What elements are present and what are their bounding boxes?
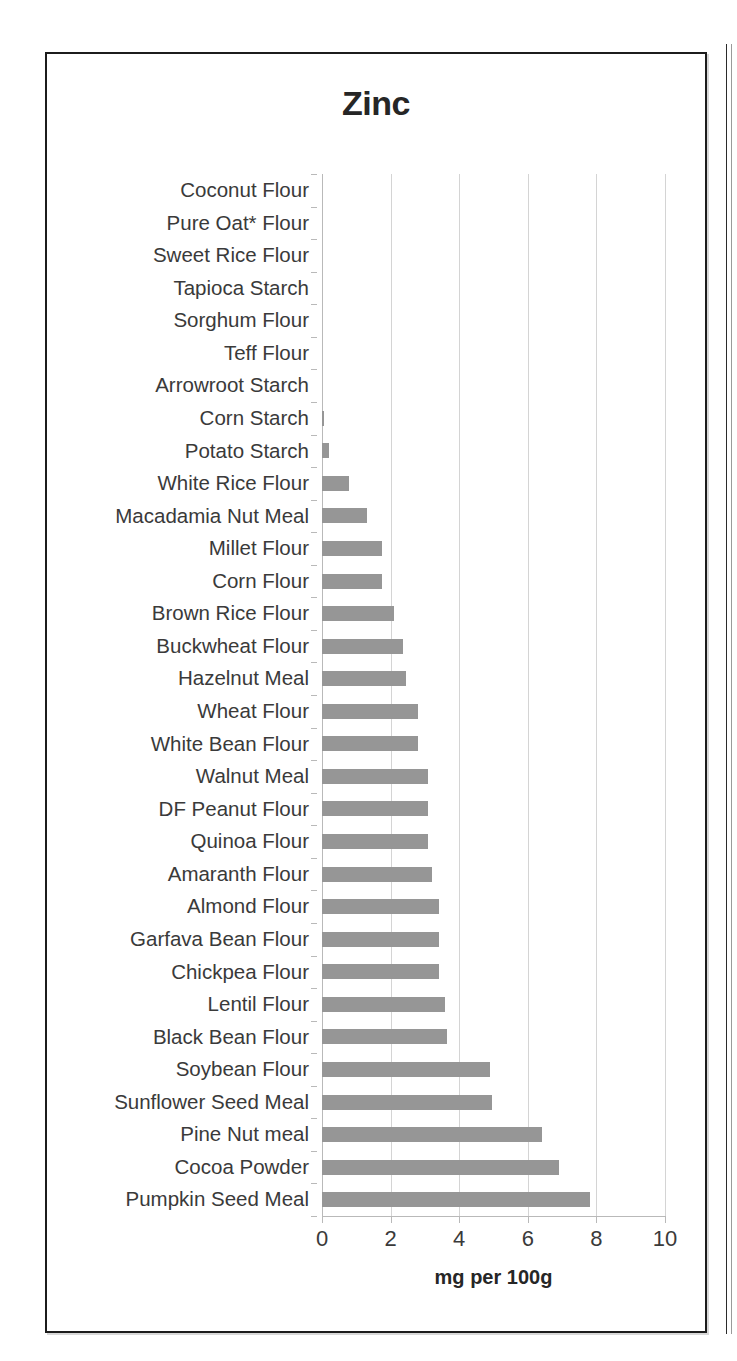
category-tick xyxy=(311,239,317,240)
bar[interactable] xyxy=(322,508,367,523)
category-tick xyxy=(311,760,317,761)
bar[interactable] xyxy=(322,639,403,654)
bar-row[interactable] xyxy=(322,825,665,858)
bar-row[interactable] xyxy=(322,1151,665,1184)
x-tick-label: 4 xyxy=(429,1226,489,1252)
page-edge-line xyxy=(726,44,727,1334)
bar-series xyxy=(322,174,665,1216)
category-tick xyxy=(311,1151,317,1152)
category-label: Pine Nut meal xyxy=(67,1118,317,1151)
bar-row[interactable] xyxy=(322,369,665,402)
bar[interactable] xyxy=(322,1160,559,1175)
category-label: Brown Rice Flour xyxy=(67,597,317,630)
category-label: Amaranth Flour xyxy=(67,858,317,891)
bar[interactable] xyxy=(322,541,382,556)
bar[interactable] xyxy=(322,606,394,621)
bar[interactable] xyxy=(322,899,439,914)
bar[interactable] xyxy=(322,574,382,589)
bar-row[interactable] xyxy=(322,728,665,761)
bar[interactable] xyxy=(322,1095,492,1110)
category-label: Sorghum Flour xyxy=(67,304,317,337)
bar-row[interactable] xyxy=(322,662,665,695)
bar-row[interactable] xyxy=(322,597,665,630)
category-label: Wheat Flour xyxy=(67,695,317,728)
bar-row[interactable] xyxy=(322,793,665,826)
category-label: Potato Starch xyxy=(67,435,317,468)
bar-row[interactable] xyxy=(322,532,665,565)
bar-row[interactable] xyxy=(322,500,665,533)
bar-row[interactable] xyxy=(322,207,665,240)
category-tick xyxy=(311,1118,317,1119)
category-label: DF Peanut Flour xyxy=(67,793,317,826)
category-tick xyxy=(311,207,317,208)
bar-row[interactable] xyxy=(322,467,665,500)
bar-row[interactable] xyxy=(322,402,665,435)
category-tick xyxy=(311,890,317,891)
bar-row[interactable] xyxy=(322,1086,665,1119)
bar-row[interactable] xyxy=(322,760,665,793)
category-tick xyxy=(311,630,317,631)
category-label: Garfava Bean Flour xyxy=(67,923,317,956)
category-axis-labels: Coconut FlourPure Oat* FlourSweet Rice F… xyxy=(67,174,317,1216)
bar-row[interactable] xyxy=(322,239,665,272)
bar-row[interactable] xyxy=(322,988,665,1021)
bar[interactable] xyxy=(322,1029,447,1044)
x-axis-line xyxy=(322,1216,665,1217)
plot-area xyxy=(322,174,665,1216)
category-label: Black Bean Flour xyxy=(67,1021,317,1054)
bar-row[interactable] xyxy=(322,630,665,663)
category-tick xyxy=(311,532,317,533)
category-tick xyxy=(311,858,317,859)
category-label: Tapioca Starch xyxy=(67,272,317,305)
category-label: Chickpea Flour xyxy=(67,956,317,989)
bar-row[interactable] xyxy=(322,1021,665,1054)
bar-row[interactable] xyxy=(322,956,665,989)
bar-row[interactable] xyxy=(322,923,665,956)
page-edge-shadow xyxy=(731,44,732,1334)
category-tick xyxy=(311,402,317,403)
category-tick xyxy=(311,565,317,566)
bar-row[interactable] xyxy=(322,174,665,207)
bar-row[interactable] xyxy=(322,1053,665,1086)
category-tick xyxy=(311,467,317,468)
category-tick xyxy=(311,988,317,989)
category-label: Pumpkin Seed Meal xyxy=(67,1183,317,1216)
bar[interactable] xyxy=(322,736,418,751)
bar[interactable] xyxy=(322,834,428,849)
category-tick xyxy=(311,174,317,175)
bar-row[interactable] xyxy=(322,304,665,337)
bar[interactable] xyxy=(322,964,439,979)
bar-row[interactable] xyxy=(322,890,665,923)
category-label: Coconut Flour xyxy=(67,174,317,207)
bar[interactable] xyxy=(322,769,428,784)
bar[interactable] xyxy=(322,671,406,686)
bar-row[interactable] xyxy=(322,435,665,468)
category-label: Corn Flour xyxy=(67,565,317,598)
bar[interactable] xyxy=(322,443,329,458)
bar[interactable] xyxy=(322,1192,590,1207)
bar[interactable] xyxy=(322,867,432,882)
x-tick xyxy=(665,1216,666,1223)
bar-row[interactable] xyxy=(322,1118,665,1151)
bar-row[interactable] xyxy=(322,695,665,728)
bar[interactable] xyxy=(322,801,428,816)
bar[interactable] xyxy=(322,411,324,426)
bar-row[interactable] xyxy=(322,337,665,370)
x-tick xyxy=(528,1216,529,1223)
bar-row[interactable] xyxy=(322,272,665,305)
category-tick xyxy=(311,825,317,826)
bar[interactable] xyxy=(322,704,418,719)
category-label: Corn Starch xyxy=(67,402,317,435)
bar[interactable] xyxy=(322,1062,490,1077)
bar[interactable] xyxy=(322,932,439,947)
bar[interactable] xyxy=(322,997,445,1012)
category-tick xyxy=(311,304,317,305)
bar-row[interactable] xyxy=(322,1183,665,1216)
category-tick xyxy=(311,500,317,501)
bar-row[interactable] xyxy=(322,565,665,598)
bar-row[interactable] xyxy=(322,858,665,891)
bar[interactable] xyxy=(322,476,349,491)
bar[interactable] xyxy=(322,1127,542,1142)
category-label: Teff Flour xyxy=(67,337,317,370)
category-label: Buckwheat Flour xyxy=(67,630,317,663)
